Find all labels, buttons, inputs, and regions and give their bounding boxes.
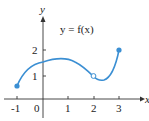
x-tick-label: 1 [65,102,71,114]
chart-title: y = f(x) [60,23,94,36]
x-tick-label: -1 [11,102,20,114]
x-tick-label: 3 [116,102,122,114]
x-tick-label: 0 [34,102,40,114]
x-tick-label: 2 [91,102,97,114]
y-axis-arrow-icon [41,16,46,22]
function-graph: x y -1 0 1 2 3 1 2 y = f(x) [0,0,149,121]
open-point [91,74,96,79]
x-axis-label: x [144,93,149,105]
y-tick-label: 1 [32,70,38,82]
y-tick-label: 2 [32,44,38,56]
filled-endpoint-right [116,47,121,52]
filled-endpoint-left [14,83,19,88]
y-axis-label: y [39,3,45,15]
